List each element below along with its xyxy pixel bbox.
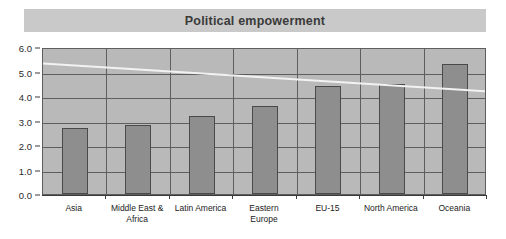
x-tick-label: Oceania bbox=[438, 203, 470, 214]
y-axis: 6.05.04.03.02.01.00.0 bbox=[0, 48, 40, 195]
x-tick-mark bbox=[486, 195, 487, 199]
y-tick-mark bbox=[35, 48, 40, 49]
y-tick-label: 0.0 bbox=[19, 190, 32, 201]
x-tick-mark bbox=[296, 195, 297, 199]
bar bbox=[189, 116, 215, 194]
chart-title-band: Political empowerment bbox=[24, 9, 486, 32]
bar bbox=[315, 86, 341, 194]
x-tick-mark bbox=[169, 195, 170, 199]
x-tick-mark bbox=[105, 195, 106, 199]
x-tick-label: EU-15 bbox=[315, 203, 339, 214]
y-tick-label: 1.0 bbox=[19, 165, 32, 176]
category-separator bbox=[106, 49, 107, 196]
bar bbox=[62, 128, 88, 194]
y-tick-mark bbox=[35, 170, 40, 171]
x-tick-label: Middle East & Africa bbox=[111, 203, 163, 225]
y-tick-label: 6.0 bbox=[19, 43, 32, 54]
y-tick-mark bbox=[35, 195, 40, 196]
y-tick-mark bbox=[35, 97, 40, 98]
x-tick-label: Latin America bbox=[175, 203, 227, 214]
category-separator bbox=[360, 49, 361, 196]
page-title: Political empowerment bbox=[185, 14, 325, 28]
bar bbox=[379, 84, 405, 194]
y-tick-label: 5.0 bbox=[19, 67, 32, 78]
bar bbox=[125, 125, 151, 194]
x-tick-mark bbox=[359, 195, 360, 199]
gridline bbox=[43, 98, 485, 99]
plot-area bbox=[42, 48, 486, 195]
y-tick-label: 3.0 bbox=[19, 116, 32, 127]
y-tick-label: 4.0 bbox=[19, 92, 32, 103]
gridline bbox=[43, 74, 485, 75]
y-tick-label: 2.0 bbox=[19, 141, 32, 152]
x-tick-label: Eastern Europe bbox=[249, 203, 278, 225]
category-separator bbox=[170, 49, 171, 196]
x-tick-mark bbox=[232, 195, 233, 199]
x-tick-mark bbox=[423, 195, 424, 199]
x-tick-label: North America bbox=[364, 203, 418, 214]
x-axis-line bbox=[42, 195, 486, 196]
category-separator bbox=[424, 49, 425, 196]
category-separator bbox=[297, 49, 298, 196]
bar bbox=[442, 64, 468, 194]
y-tick-mark bbox=[35, 72, 40, 73]
bar bbox=[252, 106, 278, 194]
x-tick-label: Asia bbox=[65, 203, 82, 214]
chart-figure: Political empowerment 6.05.04.03.02.01.0… bbox=[0, 0, 506, 239]
y-tick-mark bbox=[35, 146, 40, 147]
category-separator bbox=[233, 49, 234, 196]
y-tick-mark bbox=[35, 121, 40, 122]
